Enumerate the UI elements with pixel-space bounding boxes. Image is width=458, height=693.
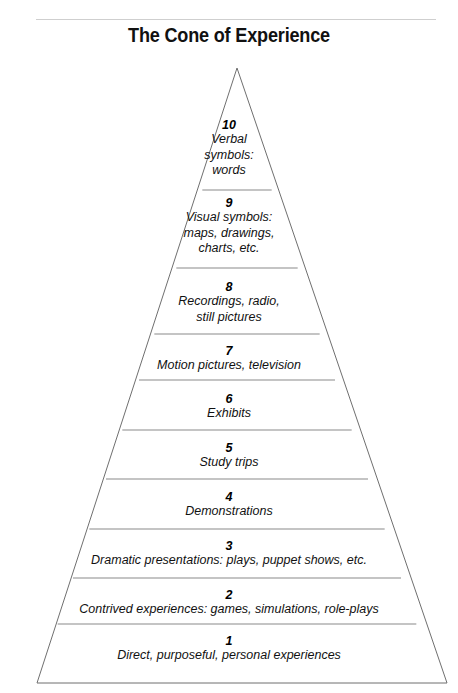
level-number: 2 bbox=[0, 588, 458, 602]
level-label: Dramatic presentations: plays, puppet sh… bbox=[0, 553, 458, 569]
level-label: Visual symbols: maps, drawings, charts, … bbox=[0, 210, 458, 257]
pyramid-level-7: 7Motion pictures, television bbox=[0, 344, 458, 374]
level-label: Verbal symbols: words bbox=[0, 132, 458, 179]
level-label: Demonstrations bbox=[0, 504, 458, 520]
pyramid-level-6: 6Exhibits bbox=[0, 392, 458, 422]
pyramid-level-2: 2Contrived experiences: games, simulatio… bbox=[0, 588, 458, 618]
pyramid-level-10: 10Verbal symbols: words bbox=[0, 118, 458, 179]
level-number: 8 bbox=[0, 280, 458, 294]
pyramid-level-9: 9Visual symbols: maps, drawings, charts,… bbox=[0, 196, 458, 257]
level-number: 7 bbox=[0, 344, 458, 358]
level-label: Contrived experiences: games, simulation… bbox=[0, 602, 458, 618]
level-label: Recordings, radio, still pictures bbox=[0, 294, 458, 325]
level-label: Study trips bbox=[0, 455, 458, 471]
level-label: Direct, purposeful, personal experiences bbox=[0, 648, 458, 664]
level-number: 6 bbox=[0, 392, 458, 406]
pyramid-level-5: 5Study trips bbox=[0, 441, 458, 471]
level-label: Motion pictures, television bbox=[0, 358, 458, 374]
level-number: 4 bbox=[0, 490, 458, 504]
level-number: 5 bbox=[0, 441, 458, 455]
pyramid-level-4: 4Demonstrations bbox=[0, 490, 458, 520]
cone-of-experience-page: The Cone of Experience 10Verbal symbols:… bbox=[0, 0, 458, 693]
level-number: 10 bbox=[0, 118, 458, 132]
level-number: 3 bbox=[0, 539, 458, 553]
level-number: 1 bbox=[0, 634, 458, 648]
pyramid-level-3: 3Dramatic presentations: plays, puppet s… bbox=[0, 539, 458, 569]
pyramid-level-1: 1Direct, purposeful, personal experience… bbox=[0, 634, 458, 664]
pyramid-level-8: 8Recordings, radio, still pictures bbox=[0, 280, 458, 325]
level-label: Exhibits bbox=[0, 406, 458, 422]
level-number: 9 bbox=[0, 196, 458, 210]
